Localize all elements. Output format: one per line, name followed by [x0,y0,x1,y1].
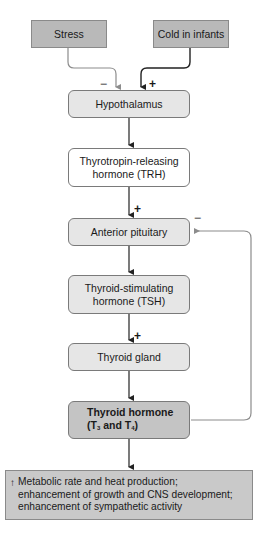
cold-label: Cold in infants [158,28,225,41]
thyroid-gland-box: Thyroid gland [68,343,190,371]
trh-label: Thyrotropin-releasing hormone (TRH) [79,155,179,181]
connector-lines [0,0,267,538]
anterior-pituitary-box: Anterior pituitary [68,218,190,246]
effects-text: Metabolic rate and heat production; enha… [18,476,233,514]
stress-inhibit-sign: − [100,78,107,90]
thyroid-hormone-box: Thyroid hormone (T3 and T4) [68,401,190,439]
hypothalamus-box: Hypothalamus [68,90,190,118]
stress-label: Stress [54,28,84,41]
trh-stimulate-sign: + [134,203,141,215]
effects-box: ↑ Metabolic rate and heat production; en… [5,470,253,520]
anterior-pituitary-label: Anterior pituitary [91,226,167,239]
feedback-inhibit-sign: − [194,212,201,224]
hypothalamus-label: Hypothalamus [95,98,162,111]
tsh-box: Thyroid-stimulating hormone (TSH) [68,275,190,314]
increase-arrow-icon: ↑ [10,477,15,490]
tsh-label: Thyroid-stimulating hormone (TSH) [81,282,177,308]
trh-box: Thyrotropin-releasing hormone (TRH) [68,148,190,187]
cold-stimulate-sign: + [149,78,156,90]
cold-in-infants-box: Cold in infants [153,20,229,48]
thyroid-hormone-label: Thyroid hormone (T3 and T4) [87,406,173,435]
tsh-stimulate-sign: + [134,330,141,342]
stress-box: Stress [31,20,107,48]
thyroid-gland-label: Thyroid gland [97,351,161,364]
